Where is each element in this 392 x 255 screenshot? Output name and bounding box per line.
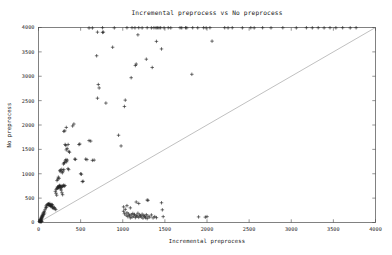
y-axis-label: No preprocess [6, 102, 13, 147]
data-point-marker [354, 26, 358, 30]
data-point-marker [77, 143, 81, 147]
y-tick-label: 500 [25, 195, 35, 201]
data-point-marker [97, 83, 101, 87]
y-tick-label: 1500 [22, 146, 35, 152]
x-tick-label: 0 [37, 226, 40, 232]
data-point-marker [65, 126, 69, 130]
data-point-marker [78, 142, 82, 146]
data-point-marker [269, 26, 273, 30]
data-point-marker [150, 213, 154, 217]
data-point-marker [97, 86, 101, 90]
y-tick-label: 1000 [22, 171, 35, 177]
data-point-marker [145, 57, 149, 61]
x-tick-label: 1000 [116, 226, 129, 232]
x-tick-label: 500 [76, 226, 86, 232]
data-point-marker [261, 26, 265, 30]
data-point-marker [96, 96, 100, 100]
data-point-marker [54, 192, 58, 196]
data-point-marker [204, 215, 208, 219]
data-point-marker [226, 26, 230, 30]
data-point-marker [155, 40, 159, 44]
y-tick-label: 0 [31, 219, 34, 225]
data-point-marker [249, 26, 253, 30]
data-point-marker [281, 26, 285, 30]
data-point-marker [311, 26, 315, 30]
data-point-marker [124, 98, 128, 102]
data-point-marker [159, 26, 163, 30]
data-point-marker [129, 76, 133, 80]
data-point-marker [169, 26, 173, 30]
data-point-marker [341, 26, 345, 30]
data-point-marker [133, 26, 137, 30]
data-point-marker [113, 26, 117, 30]
data-point-marker [140, 26, 144, 30]
data-point-marker [87, 26, 91, 30]
data-point-marker [204, 26, 208, 30]
data-point-marker [74, 158, 78, 162]
data-point-marker [295, 26, 299, 30]
data-point-marker [89, 139, 93, 143]
data-point-marker [55, 193, 59, 197]
data-point-marker [328, 26, 332, 30]
data-point-marker [111, 45, 115, 49]
data-point-marker [205, 215, 209, 219]
x-tick-label: 1500 [159, 226, 172, 232]
data-point-marker [104, 101, 108, 105]
data-point-marker [136, 211, 140, 215]
data-point-marker [119, 144, 123, 148]
data-point-marker [322, 26, 326, 30]
scatter-plot: 0500100015002000250030003500400005001000… [0, 0, 392, 255]
data-point-marker [95, 54, 99, 58]
data-point-marker [208, 26, 212, 30]
reference-line [39, 28, 376, 223]
data-point-marker [196, 26, 200, 30]
diagonal-reference-line [39, 28, 376, 223]
data-point-marker [122, 210, 126, 214]
data-point-marker [160, 47, 164, 51]
data-point-marker [161, 215, 165, 219]
chart-container: 0500100015002000250030003500400005001000… [0, 0, 392, 255]
data-point-marker [102, 30, 106, 33]
data-point-marker [125, 26, 128, 30]
data-point-marker [160, 201, 164, 205]
data-point-marker [197, 215, 201, 219]
data-point-marker [180, 26, 184, 30]
x-axis-label: Incremental preprocess [169, 238, 245, 245]
data-point-marker [80, 172, 84, 176]
data-point-marker [146, 199, 150, 203]
data-point-marker [79, 172, 83, 176]
data-point-marker [136, 33, 140, 37]
x-tick-label: 3000 [285, 226, 298, 232]
data-point-marker [137, 26, 141, 30]
data-point-marker [124, 208, 128, 212]
data-point-marker [150, 66, 154, 70]
data-point-marker [101, 26, 105, 30]
data-point-marker [161, 208, 165, 212]
chart-title: Incremental preprocess vs No preprocess [131, 9, 282, 17]
data-point-marker [231, 26, 235, 30]
data-point-marker [60, 191, 64, 195]
data-point-marker [129, 206, 133, 210]
data-points [38, 26, 358, 224]
data-point-marker [252, 26, 256, 30]
y-tick-label: 2000 [22, 122, 35, 128]
x-tick-label: 4000 [369, 226, 382, 232]
data-point-marker [223, 26, 227, 30]
data-point-marker [316, 26, 320, 30]
data-point-marker [92, 158, 96, 162]
y-tick-label: 2500 [22, 98, 35, 104]
data-point-marker [334, 26, 338, 30]
data-point-marker [122, 205, 126, 209]
y-tick-label: 4000 [22, 24, 35, 30]
data-point-marker [117, 133, 121, 137]
y-tick-label: 3500 [22, 49, 35, 55]
data-point-marker [191, 26, 195, 30]
x-tick-label: 3500 [327, 226, 340, 232]
x-tick-label: 2000 [201, 226, 214, 232]
data-point-marker [145, 26, 149, 30]
data-point-marker [190, 73, 194, 77]
y-tick-label: 3000 [22, 73, 35, 79]
data-point-marker [348, 26, 352, 30]
data-point-marker [305, 26, 309, 30]
data-point-marker [241, 26, 245, 30]
